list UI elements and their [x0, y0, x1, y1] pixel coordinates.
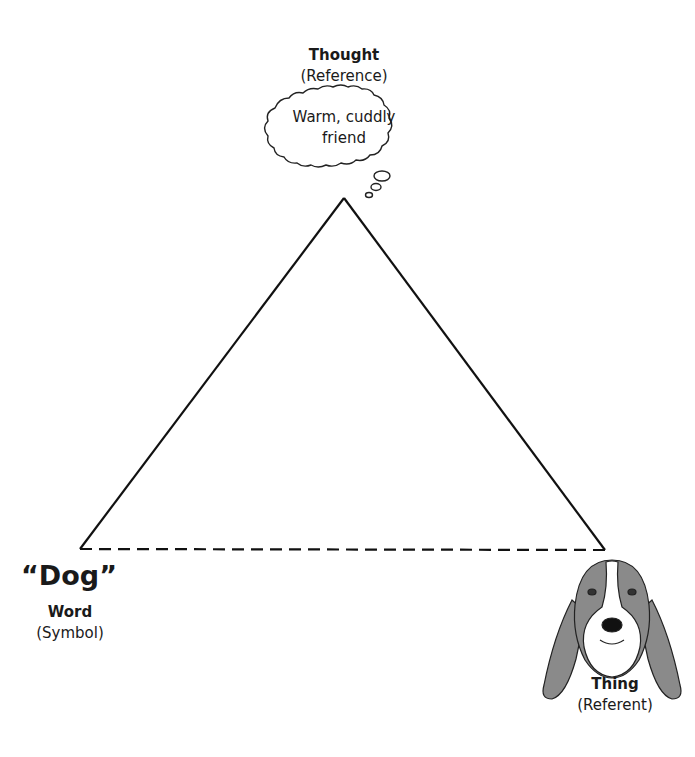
thought-label: Thought [294, 46, 394, 64]
edge-thought-word [80, 198, 344, 549]
bubble-text-line1: Warm, cuddly [279, 108, 409, 126]
referent-label: (Referent) [555, 696, 675, 714]
thing-label: Thing [565, 675, 665, 693]
bubble-text-line2: friend [279, 129, 409, 147]
word-label: Word [20, 603, 120, 621]
dog-word-label: “Dog” [14, 560, 124, 591]
symbol-label: (Symbol) [15, 624, 125, 642]
edge-thought-thing [344, 198, 605, 550]
edge-word-thing [80, 549, 605, 550]
reference-label: (Reference) [284, 67, 404, 85]
